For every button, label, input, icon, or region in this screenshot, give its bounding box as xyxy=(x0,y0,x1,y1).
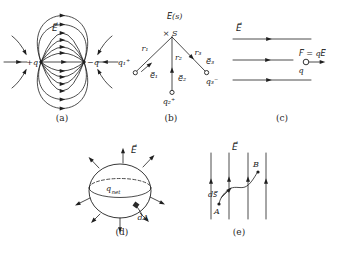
arrowhead-icon xyxy=(264,178,268,184)
charge-q1-circle xyxy=(133,71,137,75)
unit-vector-e1-label: e⃗₁ xyxy=(150,71,158,80)
arrowhead-icon xyxy=(170,67,174,73)
arrowhead-icon xyxy=(74,201,81,207)
panel-a-dipole-field: E⃗ +q −q (a) xyxy=(4,14,118,124)
path-a-to-b xyxy=(219,173,257,204)
enclosed-charge-label: q xyxy=(106,184,111,193)
arrowhead-icon xyxy=(16,60,22,64)
arrowhead-icon xyxy=(320,60,326,64)
arrowhead-icon xyxy=(22,49,28,56)
e-field-label-c: E⃗ xyxy=(236,22,242,33)
charge-q2-label: q₂⁺ xyxy=(163,97,176,106)
distance-r3-label: r₃ xyxy=(194,48,201,57)
unit-vector-e3-label: e⃗₃ xyxy=(206,57,214,66)
arrowhead-icon xyxy=(60,75,66,79)
distance-r1-label: r₁ xyxy=(141,44,148,53)
field-arrowheads-e xyxy=(209,176,268,193)
charge-q3-circle xyxy=(205,71,209,75)
test-charge-label: q xyxy=(298,66,303,75)
arrowhead-icon xyxy=(96,49,102,56)
arrowhead-icon xyxy=(22,68,28,75)
enclosed-charge-subscript: net xyxy=(112,189,122,195)
negative-charge-label: −q xyxy=(87,58,99,67)
figure-canvas: E⃗ +q −q (a) E⃗(s) × S r₁ r₂ r₃ e⃗₁ e⃗₂ … xyxy=(0,0,344,254)
arrowhead-icon xyxy=(60,31,66,35)
test-charge-circle xyxy=(303,59,309,65)
panel-c-uniform-field: E⃗ F⃗ = qE⃗ q (c) xyxy=(233,22,327,123)
point-a-dot xyxy=(217,202,220,205)
arrowhead-icon xyxy=(60,14,66,18)
panel-e-path-integral: E⃗ A B ds⃗ (e) xyxy=(208,141,268,237)
panel-b-superposition: E⃗(s) × S r₁ r₂ r₃ e⃗₁ e⃗₂ e⃗₃ q₁⁺ q₂⁺ q… xyxy=(118,11,219,123)
arrowhead-icon xyxy=(266,78,272,82)
arrowhead-icon xyxy=(265,58,271,62)
arrowhead-icon xyxy=(60,45,66,49)
area-element-label: dA xyxy=(138,213,149,222)
e-field-label-e: E⃗ xyxy=(232,141,238,152)
arrowhead-icon xyxy=(60,107,66,111)
arrowhead-icon xyxy=(61,60,67,64)
arrowhead-icon xyxy=(102,60,108,64)
equator-back-arc xyxy=(89,179,151,188)
arrowhead-icon xyxy=(60,89,66,93)
charge-q1-label: q₁⁺ xyxy=(118,58,131,67)
point-a-label: A xyxy=(213,207,220,216)
field-arrowheads-b xyxy=(147,54,196,73)
arrowhead-icon xyxy=(159,200,166,206)
arrowhead-icon xyxy=(60,82,66,86)
arrowhead-icon xyxy=(121,148,125,154)
panel-d-gaussian-sphere: E⃗ q net dA (d) xyxy=(74,144,166,237)
e-field-at-s-label: E⃗(s) xyxy=(167,11,182,21)
arrowhead-icon xyxy=(209,178,213,184)
negative-charge-dot xyxy=(82,60,85,63)
arrowhead-icon xyxy=(60,23,66,27)
arrowhead-icon xyxy=(60,51,66,55)
charge-q2-circle xyxy=(170,90,174,94)
unit-vector-e2-label: e⃗₂ xyxy=(178,74,186,83)
e-field-label-a: E⃗ xyxy=(52,22,58,33)
arrowhead-icon xyxy=(246,176,250,182)
force-equation-label: F⃗ = qE⃗ xyxy=(299,48,327,58)
point-b-label: B xyxy=(252,160,259,169)
field-arrowheads-c xyxy=(265,37,325,82)
panel-d-caption: (d) xyxy=(116,227,129,237)
arrowhead-icon xyxy=(227,176,231,182)
positive-charge-dot xyxy=(39,60,42,63)
positive-charge-label: +q xyxy=(26,58,38,67)
e-field-label-d: E⃗ xyxy=(131,144,137,155)
arrowhead-icon xyxy=(60,38,66,42)
panel-e-caption: (e) xyxy=(233,227,245,237)
point-s-label: S xyxy=(172,29,178,38)
point-b-dot xyxy=(256,170,259,173)
arrowhead-icon xyxy=(266,37,272,41)
distance-r2-label: r₂ xyxy=(175,53,182,62)
area-element-square xyxy=(133,202,140,209)
panel-a-caption: (a) xyxy=(56,113,68,123)
electric-field-figure: E⃗ +q −q (a) E⃗(s) × S r₁ r₂ r₃ e⃗₁ e⃗₂ … xyxy=(0,0,344,254)
panel-c-caption: (c) xyxy=(276,113,288,123)
arrowhead-icon xyxy=(60,69,66,73)
panel-b-caption: (b) xyxy=(165,113,178,123)
arrowhead-icon xyxy=(96,68,102,75)
point-s-marker: × xyxy=(163,29,170,38)
arrowhead-icon xyxy=(60,98,66,102)
ds-label: ds⃗ xyxy=(208,190,218,199)
charge-q3-label: q₃⁻ xyxy=(206,77,219,86)
